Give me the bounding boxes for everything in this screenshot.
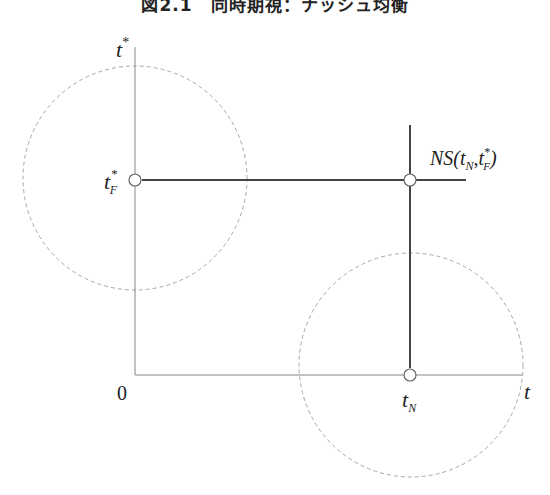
origin-label: 0: [117, 382, 127, 404]
point-tf-marker: [129, 174, 141, 186]
tn-label: tN: [402, 387, 417, 415]
equilibrium-point-marker: [404, 174, 416, 186]
tf-label: t*F: [104, 166, 118, 197]
y-axis-label: t*: [116, 35, 129, 62]
nash-equilibrium-diagram: t* t*F NS(tN,t*F) 0 tN t: [0, 0, 550, 495]
equilibrium-label: NS(tN,t*F): [429, 145, 497, 173]
point-tn-marker: [404, 369, 416, 381]
x-axis-label: t: [524, 379, 531, 404]
